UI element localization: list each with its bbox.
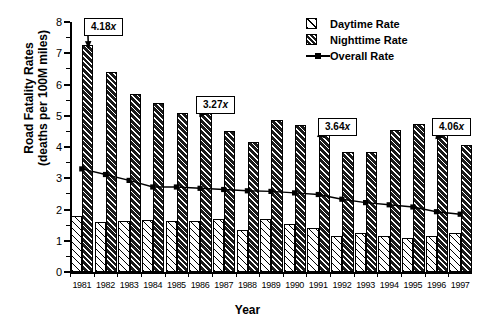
overall-rate-marker-1981 bbox=[79, 166, 84, 171]
x-tick-label-1997: 1997 bbox=[446, 280, 474, 290]
x-tick-1997 bbox=[448, 272, 449, 277]
annotation-value: 4.18 bbox=[91, 21, 110, 32]
road-fatality-rates-chart: Road Fatality Rates (deaths per 100M mil… bbox=[0, 0, 495, 327]
x-tick-1995 bbox=[401, 272, 402, 277]
overall-rate-marker-1986 bbox=[198, 186, 203, 191]
annotation-unit: x bbox=[222, 99, 228, 110]
overall-rate-marker-1993 bbox=[363, 200, 368, 205]
overall-rate-marker-1992 bbox=[339, 197, 344, 202]
hatch-light-swatch bbox=[306, 18, 317, 29]
x-tick-1994 bbox=[377, 272, 378, 277]
x-tick-1991 bbox=[306, 272, 307, 277]
legend-label-overall: Overall Rate bbox=[330, 50, 394, 62]
overall-rate-marker-1990 bbox=[292, 190, 297, 195]
annotation-callout-1991: 3.64x bbox=[318, 118, 357, 136]
legend-entry-daytime: Daytime Rate bbox=[306, 16, 408, 31]
overall-rate-line bbox=[70, 22, 472, 272]
x-tick-1983 bbox=[117, 272, 118, 277]
overall-rate-marker-1983 bbox=[127, 178, 132, 183]
y-tick-label-6: 6 bbox=[44, 80, 62, 90]
y-tick-label-5: 5 bbox=[44, 111, 62, 121]
y-tick-label-8: 8 bbox=[44, 17, 62, 27]
x-tick-1981 bbox=[70, 272, 71, 277]
annotation-callout-1986: 3.27x bbox=[196, 96, 235, 114]
overall-rate-marker-1984 bbox=[150, 184, 155, 189]
y-tick-label-7: 7 bbox=[44, 48, 62, 58]
annotation-callout-1981: 4.18x bbox=[84, 18, 123, 36]
x-tick-1989 bbox=[259, 272, 260, 277]
overall-rate-marker-1994 bbox=[387, 202, 392, 207]
overall-rate-marker-1991 bbox=[316, 192, 321, 197]
hatch-dark-swatch bbox=[306, 34, 317, 45]
x-tick-1984 bbox=[141, 272, 142, 277]
x-axis-line bbox=[70, 272, 472, 274]
overall-rate-marker-1985 bbox=[174, 184, 179, 189]
legend-label-nighttime: Nighttime Rate bbox=[330, 34, 408, 46]
x-tick-1986 bbox=[188, 272, 189, 277]
annotation-unit: x bbox=[458, 121, 464, 132]
overall-rate-marker-1989 bbox=[268, 189, 273, 194]
x-tick-1988 bbox=[236, 272, 237, 277]
y-axis-title: Road Fatality Rates (deaths per 100M mil… bbox=[22, 18, 50, 178]
x-tick-1992 bbox=[330, 272, 331, 277]
legend: Daytime Rate Nighttime Rate Overall Rate bbox=[306, 16, 408, 64]
legend-label-daytime: Daytime Rate bbox=[330, 18, 400, 30]
annotation-value: 4.06 bbox=[439, 121, 458, 132]
legend-line-marker bbox=[315, 53, 321, 59]
y-tick-label-0: 0 bbox=[44, 267, 62, 277]
annotation-unit: x bbox=[344, 121, 350, 132]
line-marker-swatch bbox=[306, 50, 330, 61]
annotation-callout-1996: 4.06x bbox=[432, 118, 471, 136]
x-axis-title-text: Year bbox=[235, 303, 260, 317]
x-tick-1987 bbox=[212, 272, 213, 277]
annotation-unit: x bbox=[110, 21, 116, 32]
annotation-value: 3.64 bbox=[325, 121, 344, 132]
y-tick-label-2: 2 bbox=[44, 205, 62, 215]
y-tick-label-1: 1 bbox=[44, 236, 62, 246]
overall-rate-marker-1996 bbox=[434, 209, 439, 214]
x-tick-1985 bbox=[165, 272, 166, 277]
x-tick-1996 bbox=[425, 272, 426, 277]
overall-rate-marker-1997 bbox=[458, 212, 463, 217]
annotation-value: 3.27 bbox=[203, 99, 222, 110]
y-tick-label-4: 4 bbox=[44, 142, 62, 152]
x-tick-1982 bbox=[94, 272, 95, 277]
legend-entry-nighttime: Nighttime Rate bbox=[306, 32, 408, 47]
plot-area: 012345678 198119821983198419851986198719… bbox=[70, 22, 472, 272]
overall-rate-marker-1988 bbox=[245, 188, 250, 193]
x-tick-1993 bbox=[354, 272, 355, 277]
overall-rate-marker-1995 bbox=[410, 204, 415, 209]
overall-rate-marker-1987 bbox=[221, 187, 226, 192]
overall-rate-marker-1982 bbox=[103, 172, 108, 177]
legend-entry-overall: Overall Rate bbox=[306, 48, 408, 63]
x-axis-title: Year bbox=[0, 303, 495, 317]
y-tick-label-3: 3 bbox=[44, 173, 62, 183]
x-tick-1990 bbox=[283, 272, 284, 277]
